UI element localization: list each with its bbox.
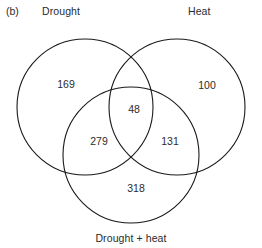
region-count-droughtheat-only: 318 [127,183,145,194]
set-label-heat: Heat [188,6,211,17]
region-count-heat-only: 100 [198,80,216,91]
region-count-drought-and-droughtheat: 279 [90,136,108,147]
region-count-heat-and-droughtheat: 131 [161,136,179,147]
venn-figure: (b) Drought Heat Drought + heat 169 100 … [0,0,262,248]
venn-circles [0,0,262,248]
region-count-drought-and-heat: 48 [128,104,140,115]
panel-label: (b) [6,6,19,17]
region-count-drought-only: 169 [57,79,75,90]
set-label-drought: Drought [42,6,80,17]
set-label-drought-heat: Drought + heat [95,233,166,244]
